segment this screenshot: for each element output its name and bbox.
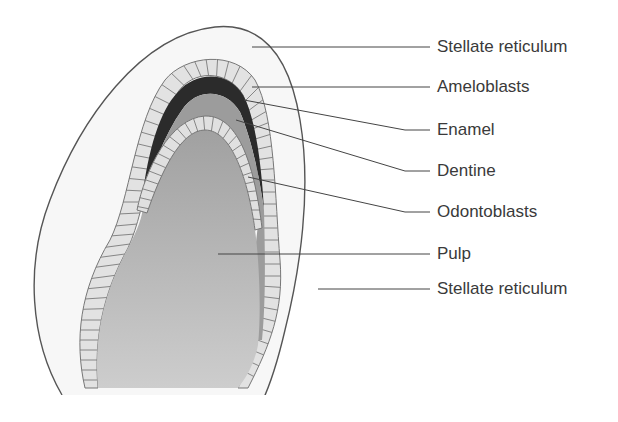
label-enamel: Enamel bbox=[437, 120, 495, 140]
tooth-germ-diagram: Stellate reticulum Ameloblasts Enamel De… bbox=[0, 0, 618, 422]
label-ameloblasts: Ameloblasts bbox=[437, 77, 530, 97]
label-pulp: Pulp bbox=[437, 244, 471, 264]
label-dentine: Dentine bbox=[437, 161, 496, 181]
label-odontoblasts: Odontoblasts bbox=[437, 202, 537, 222]
label-stellate-reticulum-top: Stellate reticulum bbox=[437, 37, 567, 57]
label-stellate-reticulum-bottom: Stellate reticulum bbox=[437, 279, 567, 299]
